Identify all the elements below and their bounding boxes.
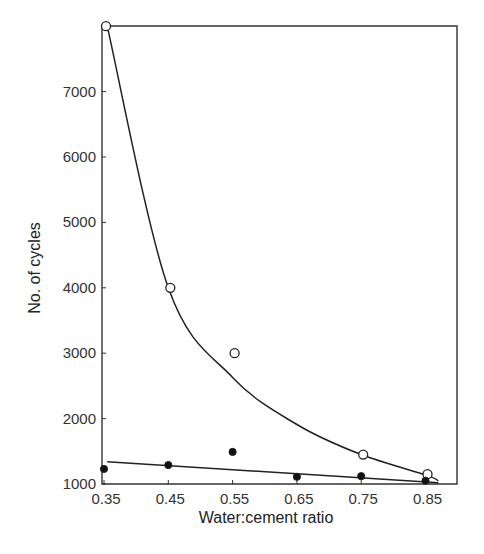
- y-axis-title: No. of cycles: [26, 222, 43, 314]
- y-tick-label: 4000: [63, 279, 96, 296]
- x-tick-label: 0.45: [156, 490, 185, 507]
- open-circle-point: [102, 22, 111, 31]
- fit-lines: [107, 26, 438, 482]
- filled-circle-point: [358, 473, 365, 480]
- x-tick-label: 0.55: [220, 490, 249, 507]
- y-tick-label: 6000: [63, 148, 96, 165]
- open-circle-point: [166, 283, 175, 292]
- filled-circle-point: [422, 477, 429, 484]
- chart: 1000200030004000500060007000 0.350.450.5…: [0, 0, 484, 554]
- y-tick-label: 2000: [63, 410, 96, 427]
- plot-frame: [102, 26, 457, 484]
- fit-line-filled: [107, 462, 438, 483]
- x-tick-label: 0.85: [413, 490, 442, 507]
- open-circle-point: [359, 450, 368, 459]
- x-tick-label: 0.65: [284, 490, 313, 507]
- filled-circle-point: [100, 465, 107, 472]
- filled-circle-point: [293, 473, 300, 480]
- y-axis-ticks: 1000200030004000500060007000: [63, 83, 106, 492]
- x-tick-label: 0.35: [91, 490, 120, 507]
- open-circle-point: [230, 349, 239, 358]
- filled-circle-point: [229, 448, 236, 455]
- x-axis-title: Water:cement ratio: [199, 509, 334, 526]
- x-tick-label: 0.75: [349, 490, 378, 507]
- y-tick-label: 7000: [63, 83, 96, 100]
- y-tick-label: 3000: [63, 344, 96, 361]
- fit-curve-open: [107, 26, 438, 481]
- filled-circle-point: [165, 461, 172, 468]
- axis-frame: [102, 26, 457, 484]
- data-points: [100, 22, 432, 485]
- y-tick-label: 5000: [63, 213, 96, 230]
